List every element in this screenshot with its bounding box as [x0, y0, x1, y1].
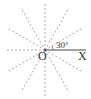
angle-label: 30°: [56, 41, 69, 50]
point-o-label: O: [38, 50, 47, 62]
angle-arc: [52, 46, 53, 50]
point-x-label: X: [78, 50, 87, 62]
